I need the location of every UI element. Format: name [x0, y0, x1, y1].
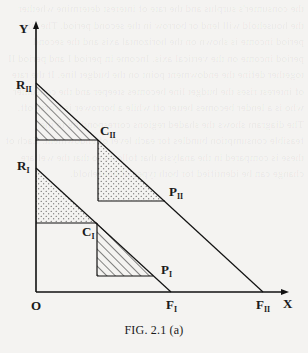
label-main: P [169, 184, 177, 199]
x-axis-label: X [283, 297, 292, 310]
label-c-ii: CII [100, 124, 116, 140]
label-main: F [256, 297, 264, 312]
figure-caption: FIG. 2.1 (a) [0, 323, 308, 338]
label-f-i: FI [166, 298, 177, 314]
label-c-i: CI [82, 225, 95, 241]
label-sub: II [264, 305, 270, 314]
label-main: R [16, 77, 25, 92]
y-axis-label: Y [19, 22, 28, 35]
label-p-i: PI [161, 263, 172, 279]
origin-label: O [31, 299, 41, 312]
label-sub: II [177, 192, 183, 201]
label-sub: I [169, 270, 172, 279]
label-sub: I [174, 305, 177, 314]
label-sub: I [91, 232, 94, 241]
label-r-ii: RII [16, 78, 32, 94]
label-sub: I [26, 166, 29, 175]
label-sub: II [109, 131, 115, 140]
label-f-ii: FII [256, 298, 270, 314]
label-main: P [161, 262, 169, 277]
label-main: C [100, 123, 109, 138]
label-main: C [82, 224, 91, 239]
budget-line-II [36, 83, 263, 292]
x-axis-arrow-icon [281, 289, 289, 295]
label-main: R [17, 158, 26, 173]
y-axis-arrow-icon [33, 21, 39, 29]
label-main: F [166, 297, 174, 312]
label-sub: II [25, 85, 31, 94]
label-r-i: RI [17, 159, 30, 175]
label-p-ii: PII [169, 185, 183, 201]
